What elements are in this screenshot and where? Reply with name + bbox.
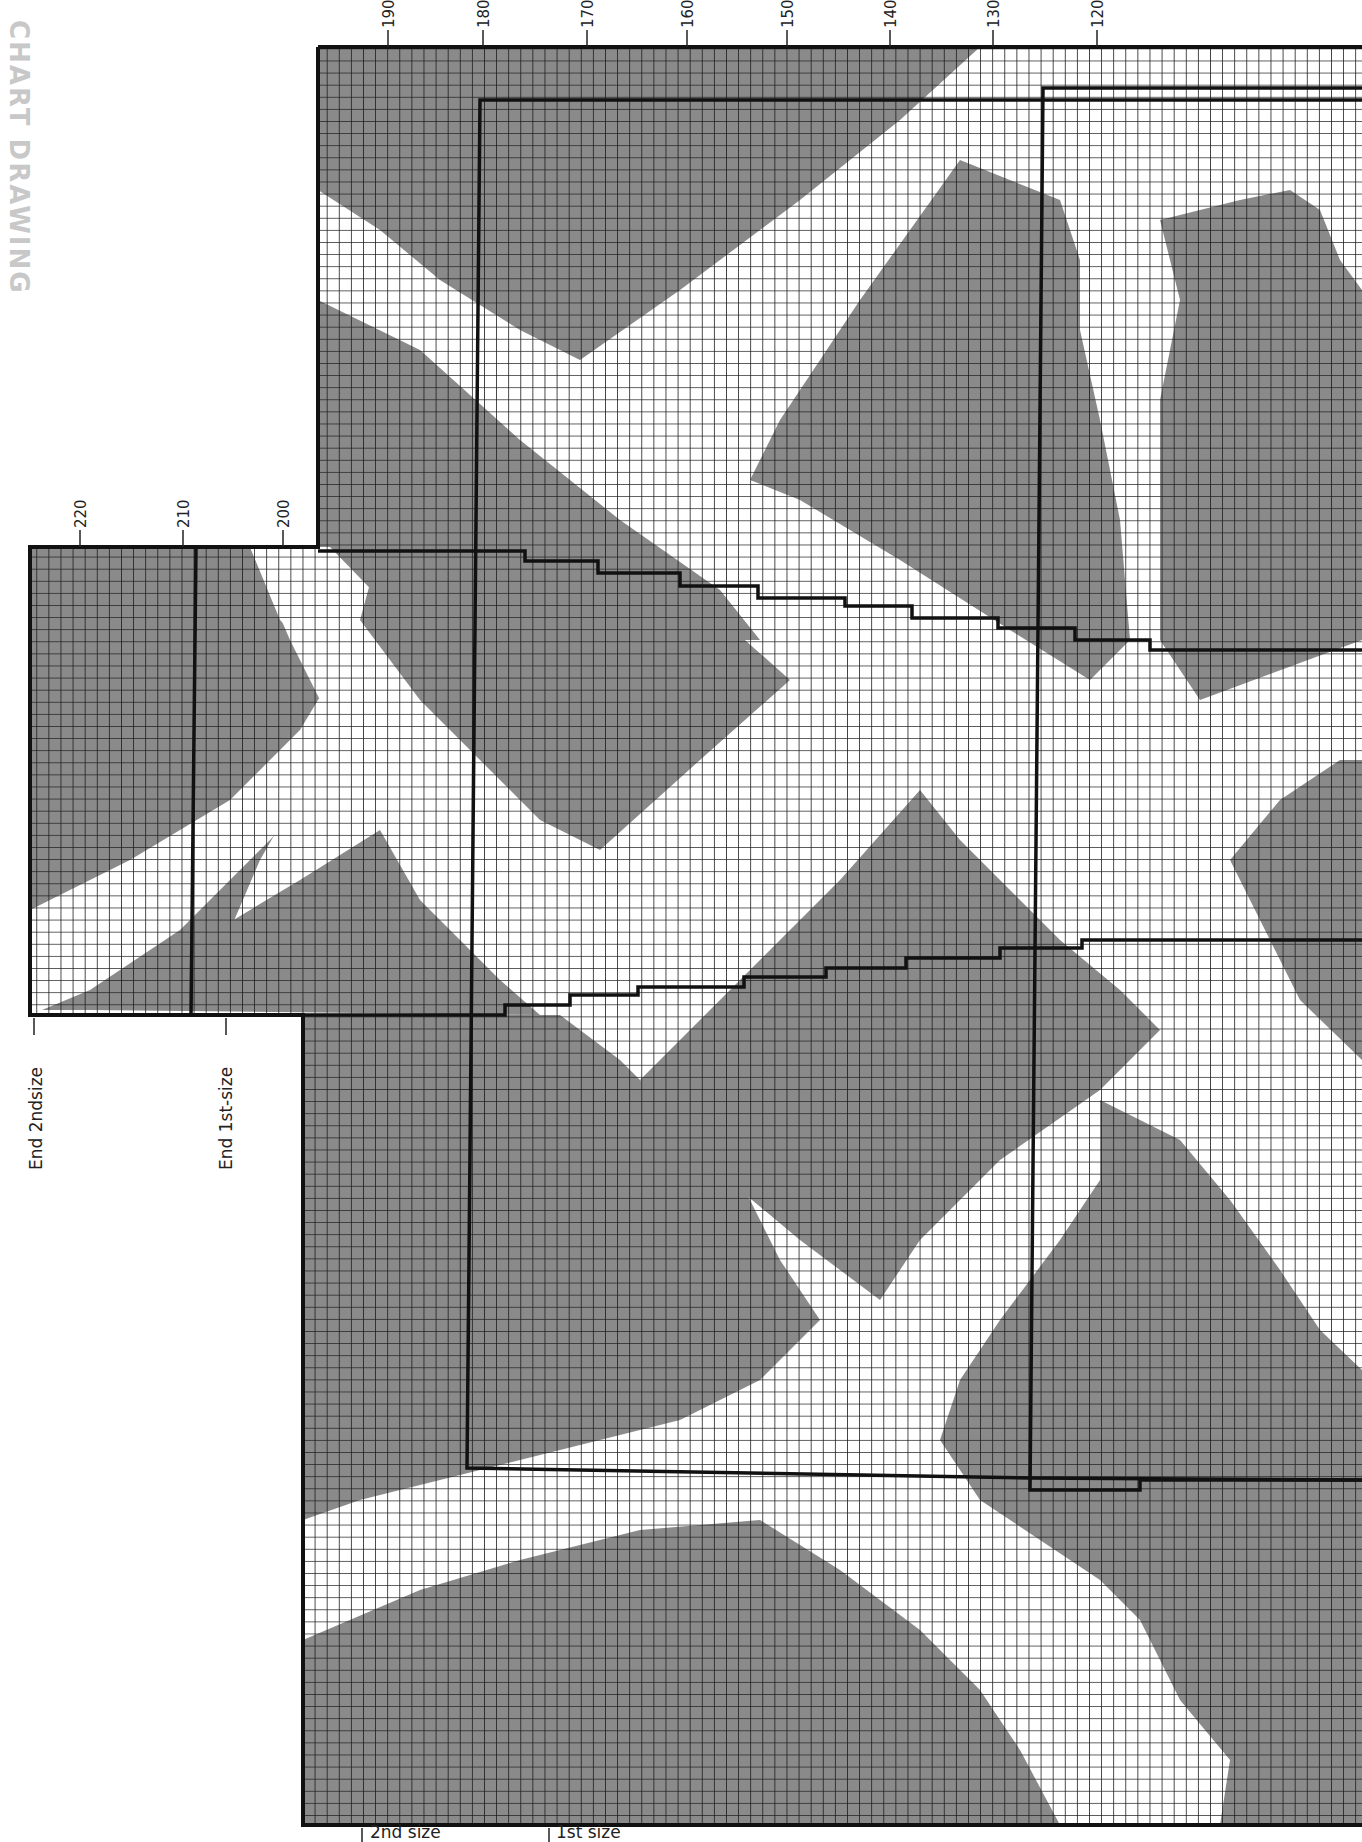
second-size-label: 2nd size xyxy=(362,1822,441,1842)
svg-text:End 2ndsize: End 2ndsize xyxy=(26,1067,46,1170)
tick-140: 140 xyxy=(882,0,900,47)
tick-220: 220 xyxy=(72,499,90,547)
first-size-label: 1st size xyxy=(549,1822,621,1842)
svg-text:160: 160 xyxy=(679,0,697,28)
end-1st-size-label: End 1st-size xyxy=(216,1018,236,1170)
top-ticks: 190 180 170 160 150 140 130 120 xyxy=(380,0,1107,47)
tick-210: 210 xyxy=(175,499,193,547)
svg-text:120: 120 xyxy=(1089,0,1107,28)
svg-text:End 1st-size: End 1st-size xyxy=(216,1067,236,1170)
knitting-chart: CHART DRAWING xyxy=(0,0,1362,1842)
tick-190: 190 xyxy=(380,0,398,47)
svg-text:150: 150 xyxy=(779,0,797,28)
tick-150: 150 xyxy=(779,0,797,47)
svg-text:CHART DRAWING: CHART DRAWING xyxy=(4,20,34,295)
svg-text:220: 220 xyxy=(72,499,90,528)
tick-170: 170 xyxy=(579,0,597,47)
svg-text:180: 180 xyxy=(475,0,493,28)
svg-text:210: 210 xyxy=(175,499,193,528)
tick-200: 200 xyxy=(275,499,293,547)
svg-text:140: 140 xyxy=(882,0,900,28)
svg-text:130: 130 xyxy=(985,0,1003,28)
tick-160: 160 xyxy=(679,0,697,47)
end-2nd-size-label: End 2ndsize xyxy=(26,1018,46,1170)
svg-text:200: 200 xyxy=(275,499,293,528)
side-title: CHART DRAWING xyxy=(4,20,34,295)
svg-text:1st size: 1st size xyxy=(556,1822,621,1842)
tick-180: 180 xyxy=(475,0,493,47)
tick-120: 120 xyxy=(1089,0,1107,47)
svg-text:170: 170 xyxy=(579,0,597,28)
chart-body xyxy=(0,0,1362,1842)
tick-130: 130 xyxy=(985,0,1003,47)
sleeve-ticks: 220 210 200 xyxy=(72,499,293,547)
svg-text:2nd size: 2nd size xyxy=(370,1822,441,1842)
svg-text:190: 190 xyxy=(380,0,398,28)
